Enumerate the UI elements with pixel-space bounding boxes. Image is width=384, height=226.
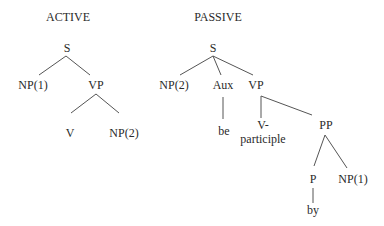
active-node-vp: VP [88, 79, 103, 91]
passive-node-p: P [310, 173, 317, 185]
edge-active-vp-v [71, 94, 96, 113]
edge-passive-pp-np1 [325, 135, 347, 168]
edge-passive-s-np2 [180, 56, 213, 75]
edge-passive-vp-pp [261, 96, 312, 115]
active-node-np2: NP(2) [109, 127, 138, 139]
passive-node-v: V- [257, 119, 269, 131]
tree-edges [0, 0, 384, 226]
passive-node-vp: VP [248, 79, 263, 91]
passive-node-np1: NP(1) [338, 173, 367, 185]
edge-active-s-np1 [39, 56, 66, 75]
passive-node-aux: Aux [213, 79, 234, 91]
passive-node-be: be [218, 125, 229, 137]
active-node-s: S [64, 42, 71, 54]
passive-node-s: S [210, 42, 217, 54]
active-node-v: V [66, 127, 75, 139]
passive-node-participle: participle [240, 133, 285, 145]
edge-passive-s-vp [213, 56, 253, 75]
passive-node-pp: PP [319, 119, 332, 131]
active-node-np1: NP(1) [18, 79, 47, 91]
edge-active-s-vp [66, 56, 90, 75]
passive-node-by: by [307, 204, 319, 216]
edge-active-vp-np2 [96, 94, 119, 113]
passive-title: PASSIVE [194, 11, 242, 23]
passive-node-np2: NP(2) [159, 79, 188, 91]
active-title: ACTIVE [46, 11, 90, 23]
edge-passive-pp-p [314, 135, 325, 166]
